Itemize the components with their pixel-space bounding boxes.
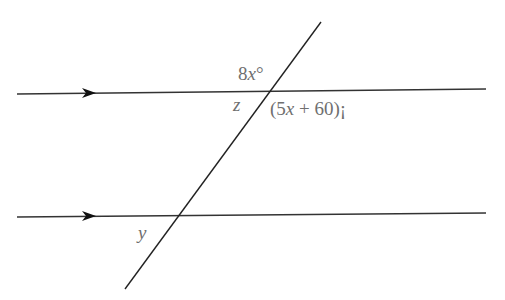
angle-label-z: z: [233, 95, 240, 114]
angle-label-8x: 8x°: [238, 64, 264, 83]
degree-symbol: °: [256, 63, 264, 84]
angle-label-y: y: [138, 223, 146, 242]
geometry-svg: [0, 0, 505, 300]
variable: x: [248, 63, 256, 84]
variable: x: [286, 98, 294, 119]
transversal-line: [125, 22, 321, 289]
coefficient: 8: [238, 63, 248, 84]
expr-open: (5: [270, 98, 286, 119]
expr-rest: + 60)¡: [294, 98, 346, 119]
angle-label-5x-plus-60: (5x + 60)¡: [270, 99, 346, 118]
diagram-canvas: 8x° z (5x + 60)¡ y: [0, 0, 505, 300]
